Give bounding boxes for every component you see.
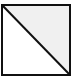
split-square-diagram — [0, 0, 78, 79]
